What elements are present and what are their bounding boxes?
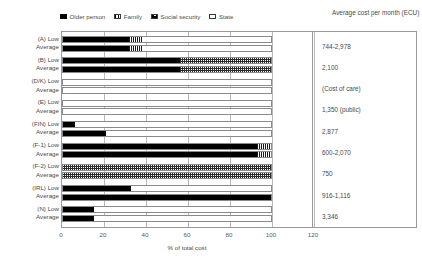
y-axis-label-DK-low: (D/K) Low [3,77,59,85]
y-axis-label-B-average: Average [3,64,59,72]
bar-segment-family [129,36,142,43]
bar-F-2-average[interactable] [62,172,272,179]
cost-value-A: 744-2,978 [322,43,351,50]
bar-segment-state [142,45,272,52]
bar-N-average[interactable] [62,215,272,222]
y-axis-label-N-average: Average [3,213,59,221]
x-tick-80: 80 [226,231,233,238]
legend-label-state: State [219,13,233,20]
x-axis-title: % of total cost [61,244,313,251]
bar-segment-older [62,121,75,128]
bar-B-average[interactable] [62,66,272,73]
bar-segment-family [129,45,142,52]
legend-label-older-person: Older person [70,13,106,20]
cost-value-FIN: 2,877 [322,128,338,135]
bar-FIN-average[interactable] [62,130,272,137]
y-axis-label-A-average: Average [3,43,59,51]
plot-inner [62,32,312,227]
bar-segment-older [62,194,272,201]
cost-value-F-1: 600-2,070 [322,149,351,156]
x-tick-60: 60 [184,231,191,238]
bar-segment-older [62,130,106,137]
bar-segment-state [75,121,272,128]
bar-segment-state [94,206,273,213]
bar-segment-older [62,206,94,213]
cost-value-F-2: 750 [322,170,333,177]
x-tick-20: 20 [100,231,107,238]
plot-area [61,31,313,228]
y-axis-label-E-average: Average [3,107,59,115]
y-axis-label-FIN-average: Average [3,128,59,136]
bar-FIN-low[interactable] [62,121,272,128]
bar-segment-older [62,215,94,222]
cost-column: 744-2,9782,100(Cost of care)1,350 (publi… [313,31,417,228]
legend-item-state: State [209,13,233,20]
bar-segment-state [131,185,272,192]
y-axis-label-E-low: (E) Low [3,98,59,106]
bar-segment-state [62,100,272,107]
y-axis-label-N-low: (N) Low [3,205,59,213]
gridline-100 [272,32,273,227]
bar-segment-social [180,57,272,64]
y-axis-label-IRL-average: Average [3,192,59,200]
bar-segment-family [257,151,272,158]
legend-swatch-social-security-icon [151,14,158,20]
y-axis-labels: (A) LowAverage(B) LowAverage(D/K) LowAve… [0,31,59,228]
bar-segment-older [62,36,129,43]
cost-value-IRL: 916-1,116 [322,192,350,199]
bar-A-average[interactable] [62,45,272,52]
bar-segment-state [106,130,272,137]
legend-label-family: Family [124,13,142,20]
x-tick-100: 100 [266,231,276,238]
bar-segment-state [142,36,272,43]
bar-DK-low[interactable] [62,79,272,86]
bar-segment-older [62,57,180,64]
bar-segment-family [257,143,272,150]
y-axis-label-B-low: (B) Low [3,56,59,64]
cost-value-B: 2,100 [322,64,338,71]
y-axis-label-F-2-low: (F-2) Low [3,162,59,170]
legend-item-older-person: Older person [60,13,105,20]
y-axis-label-F-1-low: (F-1) Low [3,141,59,149]
cost-column-header: Average cost per month (ECU) [332,8,420,17]
cost-value-E: 1,350 (public) [322,106,361,113]
legend-item-social-security: Social security [151,13,200,20]
bar-N-low[interactable] [62,206,272,213]
x-tick-0: 0 [59,231,62,238]
y-axis-label-A-low: (A) Low [3,35,59,43]
bar-segment-older [62,45,129,52]
bar-DK-average[interactable] [62,87,272,94]
bar-segment-state [94,215,273,222]
bar-E-low[interactable] [62,100,272,107]
chart-legend: Older person Family Social security Stat… [60,13,233,20]
y-axis-label-F-1-average: Average [3,150,59,158]
bar-B-low[interactable] [62,57,272,64]
y-axis-label-IRL-low: (IRL) Low [3,184,59,192]
bar-IRL-average[interactable] [62,194,272,201]
bar-A-low[interactable] [62,36,272,43]
y-axis-label-F-2-average: Average [3,171,59,179]
legend-swatch-family-icon [114,14,121,20]
y-axis-label-FIN-low: (FIN) Low [3,120,59,128]
bar-segment-older [62,185,131,192]
bar-IRL-low[interactable] [62,185,272,192]
bar-segment-state [62,79,272,86]
bar-segment-social [62,172,272,179]
legend-swatch-state-icon [209,14,216,20]
y-axis-label-DK-average: Average [3,86,59,94]
bar-F-1-low[interactable] [62,143,272,150]
legend-swatch-older-person-icon [60,14,67,20]
bar-segment-social [180,66,272,73]
legend-item-family: Family [114,13,142,20]
bar-F-2-low[interactable] [62,164,272,171]
legend-label-social-security: Social security [161,13,201,20]
bar-segment-older [62,66,180,73]
bar-F-1-average[interactable] [62,151,272,158]
x-axis-ticks: 020406080100120 [61,229,313,243]
bar-segment-state [62,87,272,94]
bar-segment-social [62,164,272,171]
bar-E-average[interactable] [62,108,272,115]
x-tick-120: 120 [308,231,318,238]
bar-segment-older [62,151,257,158]
bar-segment-older [62,143,257,150]
